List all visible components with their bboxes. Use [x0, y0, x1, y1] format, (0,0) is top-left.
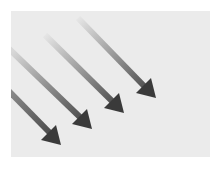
arrow-icon	[5, 45, 92, 129]
arrows-illustration	[0, 0, 220, 169]
arrow-icon	[45, 35, 124, 113]
arrow-icon	[78, 18, 156, 98]
